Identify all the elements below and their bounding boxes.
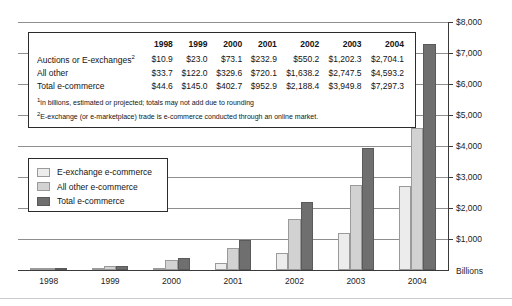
x-axis-label-1999: 1999 bbox=[79, 276, 140, 286]
bar-1999-series1 bbox=[104, 266, 116, 270]
y-axis-tick-label: $4,000 bbox=[456, 142, 482, 151]
footnote-marker: 2 bbox=[132, 54, 135, 60]
bar-2002-series0 bbox=[276, 253, 288, 270]
y-axis-tick bbox=[448, 115, 453, 116]
bar-1999-series0 bbox=[92, 268, 104, 270]
ecommerce-bar-chart-figure: $1,000$2,000$3,000$4,000$5,000$6,000$7,0… bbox=[0, 0, 512, 306]
figure-bottom-divider bbox=[0, 298, 512, 299]
bar-2004-series2 bbox=[423, 44, 435, 270]
x-axis-label-2002: 2002 bbox=[264, 276, 325, 286]
y-axis-tick bbox=[448, 208, 453, 209]
bar-1998-series1 bbox=[43, 268, 55, 270]
bar-group-2003 bbox=[338, 22, 375, 270]
bar-group-2001 bbox=[215, 22, 252, 270]
bar-2004-series1 bbox=[411, 128, 423, 270]
y-axis-tick-label: $2,000 bbox=[456, 204, 482, 213]
bar-2001-series1 bbox=[227, 248, 239, 270]
y-axis-tick-label: $6,000 bbox=[456, 80, 482, 89]
y-axis-tick bbox=[448, 22, 453, 23]
bar-2001-series0 bbox=[215, 263, 227, 270]
y-axis-tick bbox=[448, 53, 453, 54]
y-axis-tick-label: $7,000 bbox=[456, 49, 482, 58]
bar-2002-series2 bbox=[301, 202, 313, 270]
y-axis-tick-label: $5,000 bbox=[456, 111, 482, 120]
x-axis-label-2004: 2004 bbox=[387, 276, 448, 286]
bar-group-1998 bbox=[30, 22, 67, 270]
x-axis-label-2000: 2000 bbox=[141, 276, 202, 286]
bar-2002-series1 bbox=[288, 219, 300, 270]
bar-2000-series1 bbox=[165, 260, 177, 270]
bar-group-2000 bbox=[153, 22, 190, 270]
bar-group-1999 bbox=[92, 22, 129, 270]
bar-2003-series2 bbox=[362, 148, 374, 270]
y-axis-tick-label: $3,000 bbox=[456, 173, 482, 182]
x-axis-baseline bbox=[18, 270, 449, 271]
y-axis-unit-label: Billions bbox=[456, 266, 483, 276]
bar-2004-series0 bbox=[399, 186, 411, 270]
bar-2003-series1 bbox=[350, 185, 362, 270]
bar-1999-series2 bbox=[116, 266, 128, 270]
bar-group-2002 bbox=[276, 22, 313, 270]
y-axis-tick bbox=[448, 84, 453, 85]
y-axis-tick bbox=[448, 146, 453, 147]
x-axis-label-2003: 2003 bbox=[325, 276, 386, 286]
y-axis-tick bbox=[448, 177, 453, 178]
bar-1998-series2 bbox=[55, 268, 67, 270]
y-axis-tick-label: $8,000 bbox=[456, 18, 482, 27]
bar-2001-series2 bbox=[239, 240, 251, 270]
y-axis-tick-label: $1,000 bbox=[456, 235, 482, 244]
x-axis-label-2001: 2001 bbox=[202, 276, 263, 286]
x-axis-label-1998: 1998 bbox=[18, 276, 79, 286]
bar-2003-series0 bbox=[338, 233, 350, 270]
bar-group-2004 bbox=[399, 22, 436, 270]
y-axis-tick bbox=[448, 239, 453, 240]
bar-1998-series0 bbox=[30, 268, 42, 270]
bar-2000-series2 bbox=[178, 258, 190, 270]
bar-2000-series0 bbox=[153, 268, 165, 270]
